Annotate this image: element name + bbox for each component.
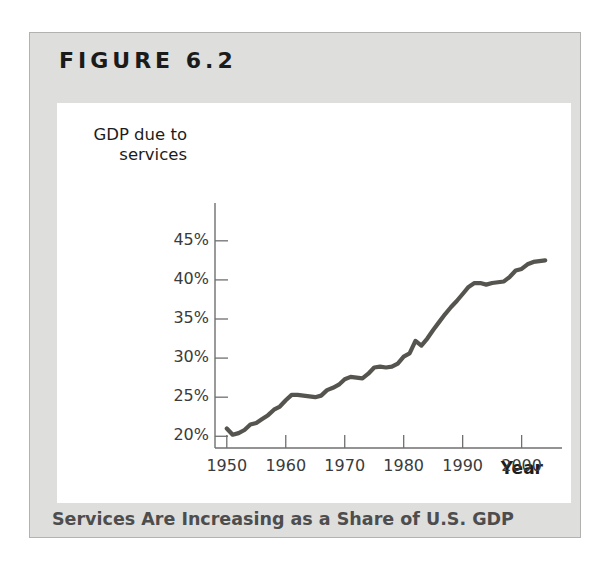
y-tick-label: 30% [153,347,209,366]
x-tick-label: 1960 [256,456,316,475]
figure-caption: Services Are Increasing as a Share of U.… [52,509,514,529]
x-tick-label: 1970 [315,456,375,475]
series-line [227,260,545,434]
figure-root: FIGURE 6.2 GDP due to services Year 20%2… [0,0,616,565]
figure-panel: FIGURE 6.2 GDP due to services Year 20%2… [29,32,581,538]
chart-axes [215,203,562,448]
chart-svg [57,103,571,503]
y-tick-label: 40% [153,269,209,288]
x-tick-label: 1950 [197,456,257,475]
figure-title: FIGURE 6.2 [59,48,237,73]
plot-area: GDP due to services Year 20%25%30%35%40%… [57,103,571,503]
y-tick-label: 20% [153,425,209,444]
x-tick-label: 2000 [492,456,552,475]
y-tick-label: 45% [153,230,209,249]
y-tick-label: 25% [153,386,209,405]
x-tick-label: 1980 [374,456,434,475]
caption-bar: Services Are Increasing as a Share of U.… [30,501,582,537]
x-tick-label: 1990 [433,456,493,475]
y-tick-label: 35% [153,308,209,327]
chart-series [227,260,545,434]
